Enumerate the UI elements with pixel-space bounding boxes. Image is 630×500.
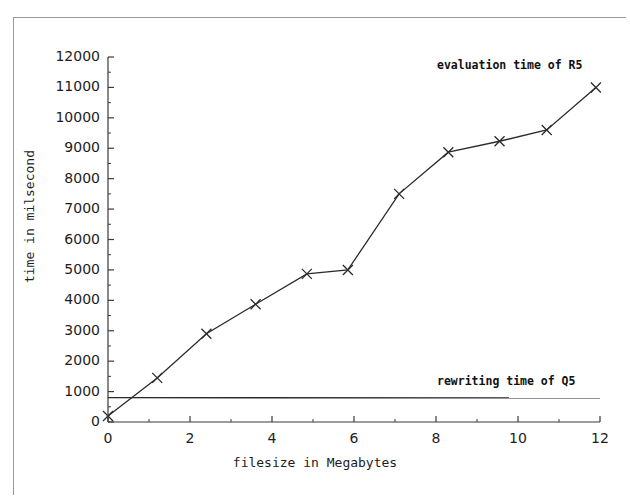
x-tick-label: 12 (580, 430, 620, 446)
data-point-marker (394, 189, 404, 199)
data-series (103, 82, 601, 421)
y-tick-label: 3000 (30, 322, 100, 338)
chart-figure: 0100020003000400050006000700080009000100… (0, 0, 630, 500)
annotation-evaluation-series: evaluation time of R5 (437, 58, 582, 72)
x-tick-label: 4 (252, 430, 292, 446)
y-tick-label: 2000 (30, 352, 100, 368)
y-tick-label: 0 (30, 413, 100, 429)
y-tick-label: 12000 (30, 48, 100, 64)
y-tick-label: 4000 (30, 291, 100, 307)
data-point-marker (542, 125, 552, 135)
y-axis-title: time in milsecond (22, 150, 44, 283)
x-tick-label: 2 (170, 430, 210, 446)
data-point-marker (201, 329, 211, 339)
data-point-marker (591, 82, 601, 92)
y-tick-label: 11000 (30, 78, 100, 94)
y-tick-label: 10000 (30, 109, 100, 125)
annotation-rewriting-series: rewriting time of Q5 (437, 374, 575, 388)
series-line-0 (108, 87, 596, 416)
x-tick-label: 6 (334, 430, 374, 446)
x-axis-title: filesize in Megabytes (0, 455, 630, 470)
axes (108, 57, 600, 422)
x-tick-label: 10 (498, 430, 538, 446)
x-tick-label: 8 (416, 430, 456, 446)
x-tick-label: 0 (88, 430, 128, 446)
data-point-marker (495, 136, 505, 146)
data-point-marker (152, 373, 162, 383)
data-point-marker (443, 147, 453, 157)
y-tick-label: 1000 (30, 383, 100, 399)
data-point-marker (251, 299, 261, 309)
